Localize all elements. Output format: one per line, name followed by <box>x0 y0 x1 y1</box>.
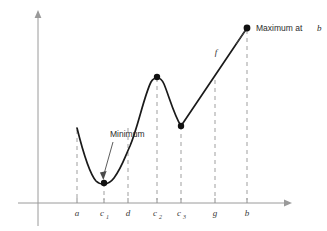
tick-label-c3: c <box>177 208 181 218</box>
tick-label-a: a <box>75 208 80 218</box>
tick-label-g: g <box>213 208 218 218</box>
function-label-f: f <box>215 47 219 57</box>
tick-label-c3-subscript: 3 <box>182 214 186 220</box>
calculus-extrema-figure: a c 1 d c 2 c 3 g b Minimum Maximum at b… <box>0 0 327 231</box>
tick-label-c2-subscript: 2 <box>159 214 162 220</box>
point-maximum-b <box>244 25 251 32</box>
point-minimum-c1 <box>101 180 107 186</box>
point-local-max-c2 <box>154 74 160 80</box>
function-curve-f <box>77 28 247 184</box>
x-axis-ticks <box>77 198 247 203</box>
x-axis <box>18 200 292 207</box>
minimum-leader-arrow <box>100 142 113 180</box>
maximum-leader-line <box>236 31 245 44</box>
maximum-annotation-text: Maximum at <box>256 23 303 33</box>
point-local-min-c3 <box>178 123 184 129</box>
tick-label-d: d <box>126 208 131 218</box>
minimum-annotation-label: Minimum <box>110 129 144 139</box>
tick-label-b: b <box>245 208 250 218</box>
maximum-annotation-label: Maximum at b <box>256 23 322 33</box>
tick-label-c2: c <box>153 208 157 218</box>
x-axis-tick-labels: a c 1 d c 2 c 3 g b <box>75 208 250 220</box>
y-axis <box>35 10 42 226</box>
tick-label-c1-subscript: 1 <box>106 214 109 220</box>
maximum-annotation-variable: b <box>317 23 322 33</box>
tick-label-c1: c <box>100 208 104 218</box>
